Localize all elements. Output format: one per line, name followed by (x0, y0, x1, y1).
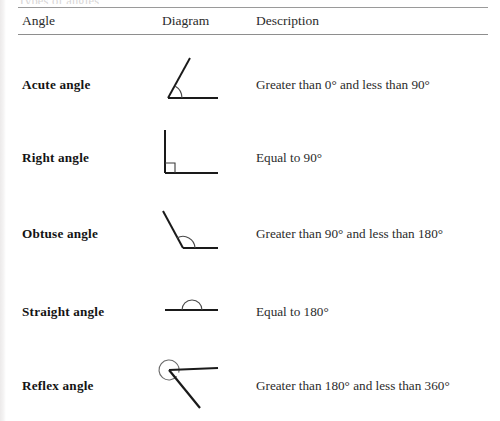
acute-angle-diagram (150, 50, 230, 124)
table-row: Acute angle Greater than 0° and less tha… (0, 50, 500, 124)
right-angle-diagram (150, 124, 230, 198)
row-label-right: Right angle (22, 150, 89, 166)
row-label-obtuse: Obtuse angle (22, 226, 98, 242)
straight-angle-diagram (150, 278, 230, 352)
row-description-acute: Greater than 0° and less than 90° (256, 77, 430, 93)
reflex-angle-diagram (150, 352, 230, 421)
column-header-description: Description (256, 13, 319, 29)
row-description-right: Equal to 90° (256, 150, 322, 166)
table-top-rule (18, 7, 488, 8)
row-label-acute: Acute angle (22, 77, 91, 93)
row-label-straight: Straight angle (22, 304, 104, 320)
table-row: Obtuse angle Greater than 90° and less t… (0, 200, 500, 274)
row-description-straight: Equal to 180° (256, 304, 329, 320)
table-header-rule (18, 34, 488, 35)
row-description-obtuse: Greater than 90° and less than 180° (256, 226, 443, 242)
angles-table: Angle Diagram Description Acute angle Gr… (0, 0, 500, 421)
column-header-angle: Angle (22, 13, 55, 29)
table-row: Right angle Equal to 90° (0, 124, 500, 198)
row-label-reflex: Reflex angle (22, 378, 94, 394)
column-header-diagram: Diagram (162, 13, 209, 29)
row-description-reflex: Greater than 180° and less than 360° (256, 378, 450, 394)
table-row: Straight angle Equal to 180° (0, 278, 500, 352)
obtuse-angle-diagram (150, 200, 230, 274)
table-row: Reflex angle Greater than 180° and less … (0, 352, 500, 421)
